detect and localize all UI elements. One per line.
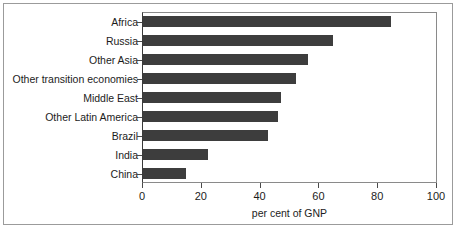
x-axis-tick-label: 80 — [371, 190, 383, 202]
y-axis-tick — [137, 174, 142, 175]
x-axis-tick — [377, 183, 378, 188]
x-axis-tick-label: 60 — [312, 190, 324, 202]
value-axis: 020406080100 — [0, 0, 456, 231]
x-axis-tick — [318, 183, 319, 188]
x-axis-tick — [436, 183, 437, 188]
x-axis-title: per cent of GNP — [142, 207, 437, 219]
x-axis-tick-label: 20 — [195, 190, 207, 202]
y-axis-tick — [137, 117, 142, 118]
x-axis-tick-label: 100 — [427, 190, 445, 202]
bar-chart-figure: AfricaRussiaOther AsiaOther transition e… — [0, 0, 456, 231]
y-axis-tick — [137, 98, 142, 99]
x-axis-tick — [201, 183, 202, 188]
y-axis-tick — [137, 41, 142, 42]
y-axis-tick — [137, 155, 142, 156]
y-axis-tick — [137, 60, 142, 61]
x-axis-tick-label: 40 — [253, 190, 265, 202]
x-axis-tick — [260, 183, 261, 188]
y-axis-tick — [137, 22, 142, 23]
y-axis-tick — [137, 79, 142, 80]
x-axis-tick — [142, 183, 143, 188]
y-axis-tick — [137, 136, 142, 137]
x-axis-tick-label: 0 — [139, 190, 145, 202]
